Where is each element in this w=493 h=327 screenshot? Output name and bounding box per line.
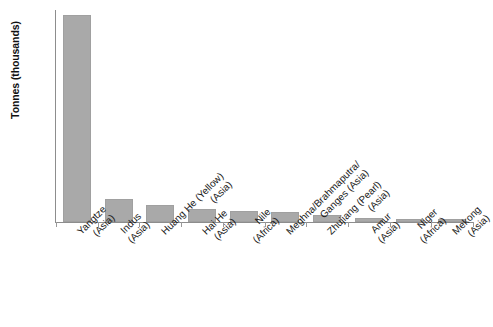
bar[interactable] xyxy=(63,15,91,222)
x-tick-mark xyxy=(306,222,307,227)
x-tick-mark xyxy=(348,222,349,227)
x-tick-mark xyxy=(181,222,182,227)
bars-layer xyxy=(56,10,473,222)
x-tick-mark xyxy=(265,222,266,227)
x-axis-labels: Yangtze(Asia)Indus(Asia)Huang He (Yellow… xyxy=(56,229,473,327)
bar-slot xyxy=(390,10,432,222)
bar-slot xyxy=(265,10,307,222)
x-tick-mark xyxy=(56,222,57,227)
x-tick-mark xyxy=(223,222,224,227)
x-tick-mark xyxy=(98,222,99,227)
x-tick-mark xyxy=(390,222,391,227)
x-tick-mark xyxy=(473,222,474,227)
bar-slot xyxy=(56,10,98,222)
bar-slot xyxy=(98,10,140,222)
x-tick-mark xyxy=(431,222,432,227)
bar-slot xyxy=(431,10,473,222)
x-tick-mark xyxy=(139,222,140,227)
bar-slot xyxy=(139,10,181,222)
y-axis-title: Tonnes (thousands) xyxy=(9,10,25,130)
